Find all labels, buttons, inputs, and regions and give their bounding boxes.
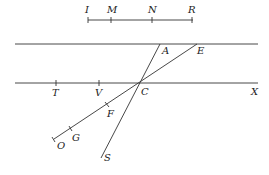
label-S: S (104, 152, 111, 163)
label-T: T (52, 87, 60, 98)
label-G: G (72, 132, 80, 143)
label-C: C (141, 86, 149, 97)
line-A-S (101, 44, 160, 158)
label-R: R (187, 4, 196, 15)
geometry-diagram: I M N R A E C T V X F G O S (0, 0, 269, 175)
line-E-O (54, 44, 197, 139)
label-A: A (161, 45, 169, 56)
label-X: X (250, 86, 259, 97)
label-N: N (147, 4, 158, 15)
tick-O (52, 137, 55, 142)
label-I: I (84, 4, 90, 15)
label-F: F (106, 108, 115, 119)
scale-segment: I M N R (84, 4, 196, 23)
label-O: O (57, 140, 65, 151)
label-V: V (95, 87, 104, 98)
label-M: M (106, 4, 118, 15)
label-E: E (196, 45, 205, 56)
